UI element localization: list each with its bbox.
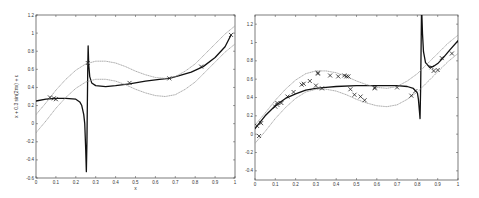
data-points: [255, 52, 454, 139]
x-tick-label: 0.5: [353, 182, 360, 187]
x-tick-label: 0.8: [192, 180, 199, 185]
x-tick-label: 0.2: [292, 182, 299, 187]
y-tick-label: 0.6: [247, 77, 254, 82]
x-marker: [328, 74, 332, 78]
left-plot: 00.10.20.30.40.50.60.70.80.91-0.6-0.4-0.…: [13, 13, 237, 192]
y-tick-label: 0.4: [28, 85, 35, 90]
x-tick-label: 0.1: [53, 180, 60, 185]
x-tick-label: 0.7: [394, 182, 401, 187]
y-axis-label: x + 0.3 sin(2πx) + ε: [13, 74, 19, 118]
x-marker: [314, 84, 318, 88]
y-tick-label: 0.8: [28, 49, 35, 54]
axes-frame: [255, 15, 458, 180]
y-tick-label: -0.4: [26, 157, 34, 162]
x-marker: [352, 93, 356, 97]
x-marker: [257, 134, 261, 138]
x-marker: [308, 79, 312, 83]
y-tick-label: 0: [31, 121, 34, 126]
y-tick-label: 0.8: [247, 58, 254, 63]
fit-curve: [36, 35, 231, 172]
x-marker: [292, 90, 296, 94]
x-tick-label: 0.4: [112, 180, 119, 185]
x-tick-label: 0.9: [435, 182, 442, 187]
confidence-band: [255, 35, 458, 125]
x-tick-label: 0: [35, 180, 38, 185]
x-tick-label: 0.1: [272, 182, 279, 187]
x-tick-label: 0.6: [152, 180, 159, 185]
x-marker: [336, 74, 340, 78]
confidence-band: [36, 26, 235, 115]
confidence-band: [36, 44, 235, 133]
y-tick-label: 1: [31, 31, 34, 36]
fit-curve: [255, 15, 458, 129]
x-tick-label: 1: [457, 182, 460, 187]
x-tick-label: 0: [254, 182, 257, 187]
axes-frame: [36, 15, 235, 178]
x-marker: [450, 52, 454, 56]
x-marker: [255, 124, 259, 128]
y-tick-label: 0.2: [28, 103, 35, 108]
figure: 00.10.20.30.40.50.60.70.80.91-0.6-0.4-0.…: [0, 0, 479, 198]
x-marker: [348, 87, 352, 91]
y-tick-label: -0.6: [26, 176, 34, 181]
x-tick-label: 0.3: [93, 180, 100, 185]
x-tick-label: 0.8: [414, 182, 421, 187]
y-tick-label: 0.2: [247, 113, 254, 118]
x-marker: [359, 95, 363, 99]
x-marker: [432, 69, 436, 73]
x-tick-label: 0.2: [73, 180, 80, 185]
right-plot: 00.10.20.30.40.50.60.70.80.91-0.4-0.200.…: [245, 15, 460, 187]
y-tick-label: -0.4: [245, 168, 253, 173]
x-tick-label: 0.3: [313, 182, 320, 187]
y-tick-label: 1.2: [247, 22, 254, 27]
x-axis-label: x: [134, 185, 137, 191]
y-tick-label: 0: [250, 132, 253, 137]
x-tick-label: 0.6: [374, 182, 381, 187]
y-tick-label: -0.2: [26, 139, 34, 144]
x-marker: [363, 98, 367, 102]
x-tick-label: 0.9: [212, 180, 219, 185]
y-tick-label: 0.4: [247, 95, 254, 100]
x-tick-label: 0.4: [333, 182, 340, 187]
x-tick-label: 0.7: [172, 180, 179, 185]
y-tick-label: 1: [250, 40, 253, 45]
y-tick-label: 0.6: [28, 67, 35, 72]
x-tick-label: 1: [234, 180, 237, 185]
y-tick-label: 1.2: [28, 13, 35, 18]
y-tick-label: -0.2: [245, 150, 253, 155]
